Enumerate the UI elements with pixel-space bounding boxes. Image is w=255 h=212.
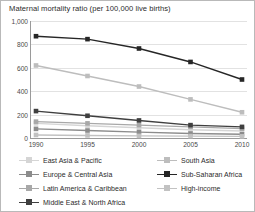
data-point-marker <box>34 34 39 39</box>
legend-marker-icon <box>19 170 39 179</box>
data-point-marker <box>85 128 90 133</box>
data-point-marker <box>137 84 142 89</box>
plot-area <box>31 21 247 138</box>
data-point-marker <box>240 134 245 139</box>
chart-legend: East Asia & PacificSouth AsiaEurope & Ce… <box>1 153 255 211</box>
x-tick-label: 2010 <box>235 141 250 148</box>
legend-label: Middle East & North Africa <box>43 199 125 206</box>
legend-label: High-income <box>181 185 221 192</box>
legend-item[interactable]: East Asia & Pacific <box>19 153 102 167</box>
data-point-marker <box>85 113 90 118</box>
data-point-marker <box>137 123 142 128</box>
legend-row: Middle East & North Africa <box>1 195 255 209</box>
legend-marker-icon <box>19 184 39 193</box>
data-point-marker <box>240 77 245 82</box>
data-point-marker <box>188 60 193 65</box>
data-point-marker <box>188 123 193 128</box>
legend-marker-icon <box>157 184 177 193</box>
legend-marker-icon <box>157 156 177 165</box>
series-group <box>34 63 245 114</box>
series-line <box>36 36 242 79</box>
y-axis-tick-labels: 02004006008001,000 <box>1 21 28 139</box>
data-point-marker <box>240 110 245 115</box>
y-tick-label: 200 <box>2 111 28 118</box>
y-tick-label: 0 <box>2 135 28 142</box>
legend-marker-icon <box>157 170 177 179</box>
x-tick-label: 1995 <box>80 141 95 148</box>
legend-item[interactable]: Middle East & North Africa <box>19 195 125 209</box>
legend-label: South Asia <box>181 157 215 164</box>
data-point-marker <box>240 125 245 130</box>
data-point-marker <box>34 119 39 124</box>
legend-marker-icon <box>19 198 39 207</box>
legend-label: Latin America & Caribbean <box>43 185 127 192</box>
legend-label: Sub-Saharan Africa <box>181 171 242 178</box>
x-axis-tick-labels: 19901995200020052010 <box>31 141 247 151</box>
legend-marker-icon <box>19 156 39 165</box>
legend-label: East Asia & Pacific <box>43 157 102 164</box>
legend-row: East Asia & PacificSouth Asia <box>1 153 255 167</box>
x-tick-label: 2000 <box>132 141 147 148</box>
data-point-marker <box>34 109 39 114</box>
data-point-marker <box>85 133 90 138</box>
data-point-marker <box>34 127 39 132</box>
legend-item[interactable]: South Asia <box>157 153 215 167</box>
legend-row: Europe & Central AsiaSub-Saharan Africa <box>1 167 255 181</box>
legend-row: Latin America & CaribbeanHigh-income <box>1 181 255 195</box>
data-point-marker <box>34 133 39 138</box>
data-point-marker <box>137 118 142 123</box>
y-tick-label: 1,000 <box>2 18 28 25</box>
legend-item[interactable]: Sub-Saharan Africa <box>157 167 242 181</box>
y-tick-label: 400 <box>2 88 28 95</box>
chart-figure: Maternal mortality ratio (per 100,000 li… <box>0 0 255 212</box>
legend-label: Europe & Central Asia <box>43 171 112 178</box>
data-point-marker <box>137 134 142 139</box>
data-point-marker <box>85 74 90 79</box>
chart-title: Maternal mortality ratio (per 100,000 li… <box>9 4 171 13</box>
data-point-marker <box>85 37 90 42</box>
x-tick-label: 2005 <box>183 141 198 148</box>
series-line <box>36 65 242 112</box>
legend-item[interactable]: High-income <box>157 181 221 195</box>
legend-item[interactable]: Europe & Central Asia <box>19 167 112 181</box>
series-lines <box>31 21 247 138</box>
data-point-marker <box>137 46 142 51</box>
series-group <box>34 34 245 82</box>
data-point-marker <box>188 97 193 102</box>
y-tick-label: 800 <box>2 41 28 48</box>
x-tick-label: 1990 <box>29 141 44 148</box>
legend-item[interactable]: Latin America & Caribbean <box>19 181 127 195</box>
data-point-marker <box>188 134 193 139</box>
data-point-marker <box>85 121 90 126</box>
y-tick-label: 600 <box>2 64 28 71</box>
data-point-marker <box>34 63 39 68</box>
